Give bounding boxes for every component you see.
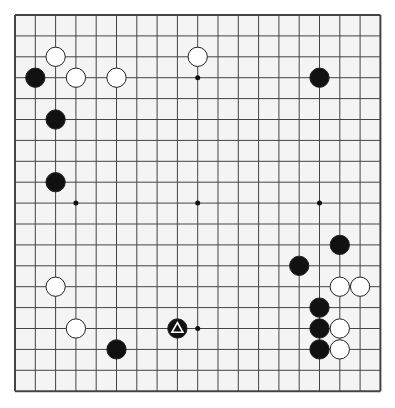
black-stone[interactable] (310, 68, 329, 87)
white-stone[interactable] (107, 68, 126, 87)
white-stone[interactable] (330, 319, 349, 338)
white-stone[interactable] (46, 277, 65, 296)
star-point (195, 326, 200, 331)
white-stone[interactable] (330, 340, 349, 359)
black-stone[interactable] (107, 340, 126, 359)
black-stone[interactable] (310, 319, 329, 338)
black-stone[interactable] (310, 340, 329, 359)
black-stone[interactable] (46, 173, 65, 192)
white-stone[interactable] (46, 47, 65, 66)
go-board[interactable] (0, 0, 395, 408)
white-stone[interactable] (188, 47, 207, 66)
white-stone[interactable] (350, 277, 369, 296)
black-stone[interactable] (330, 235, 349, 254)
star-point (195, 201, 200, 206)
black-stone[interactable] (290, 256, 309, 275)
black-stone[interactable] (46, 110, 65, 129)
black-stone[interactable] (310, 298, 329, 317)
star-point (195, 75, 200, 80)
white-stone[interactable] (66, 319, 85, 338)
star-point (73, 201, 78, 206)
black-stone[interactable] (26, 68, 45, 87)
white-stone[interactable] (66, 68, 85, 87)
star-point (317, 201, 322, 206)
white-stone[interactable] (330, 277, 349, 296)
